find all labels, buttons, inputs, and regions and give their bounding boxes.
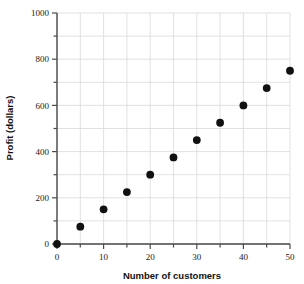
y-tick-label: 1000 xyxy=(31,8,50,18)
x-axis-tick-labels: 01020304050 xyxy=(55,252,295,262)
y-tick-label: 400 xyxy=(36,147,50,157)
y-tick-label: 800 xyxy=(36,54,50,64)
data-point xyxy=(146,171,154,179)
x-axis-title: Number of customers xyxy=(123,270,221,281)
data-point xyxy=(286,67,294,75)
data-point xyxy=(123,188,131,196)
x-tick-label: 40 xyxy=(239,252,249,262)
y-tick-label: 200 xyxy=(36,193,50,203)
x-tick-label: 0 xyxy=(55,252,60,262)
data-point xyxy=(170,153,178,161)
x-tick-label: 50 xyxy=(286,252,296,262)
scatter-plot-figure: 01020304050 02004006008001000 Number of … xyxy=(0,0,304,284)
data-point xyxy=(193,136,201,144)
data-point xyxy=(216,119,224,127)
x-tick-label: 30 xyxy=(192,252,202,262)
y-axis-tick-labels: 02004006008001000 xyxy=(31,8,50,249)
minor-gridlines xyxy=(57,13,290,244)
x-tick-label: 20 xyxy=(146,252,156,262)
y-axis-title: Profit (dollars) xyxy=(4,96,15,161)
data-point xyxy=(53,240,61,248)
x-tick-label: 10 xyxy=(99,252,109,262)
y-tick-label: 600 xyxy=(36,101,50,111)
data-point xyxy=(76,223,84,231)
data-point xyxy=(263,84,271,92)
data-point xyxy=(100,205,108,213)
y-tick-label: 0 xyxy=(45,239,50,249)
axis-ticks xyxy=(52,13,290,249)
plot-canvas: 01020304050 02004006008001000 Number of … xyxy=(0,0,304,284)
data-point xyxy=(240,102,248,110)
